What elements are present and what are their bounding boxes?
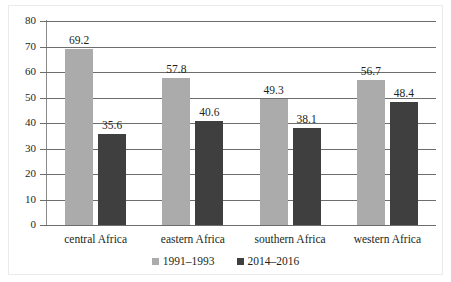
legend-label: 2014–2016 <box>248 255 300 268</box>
y-axis-tick-label: 50 <box>10 92 36 103</box>
y-axis-tick <box>40 174 47 175</box>
bar-value-label: 57.8 <box>156 63 196 75</box>
bar-value-label: 38.1 <box>287 113 327 125</box>
y-axis-tick-label: 70 <box>10 41 36 52</box>
bar <box>65 49 93 225</box>
bar <box>260 99 288 225</box>
y-axis-tick <box>40 72 47 73</box>
bar <box>357 80 385 225</box>
y-axis-tick <box>40 21 47 22</box>
y-axis-tick <box>40 225 47 226</box>
legend: 1991–19932014–2016 <box>0 255 451 268</box>
y-axis-tick <box>40 200 47 201</box>
y-axis-tick <box>40 149 47 150</box>
category-label: western Africa <box>327 233 447 246</box>
bar-value-label: 56.7 <box>351 65 391 77</box>
bar-chart: 01020304050607080 69.235.657.840.649.338… <box>0 0 451 282</box>
y-axis-tick-label: 10 <box>10 194 36 205</box>
y-axis-tick-label: 20 <box>10 168 36 179</box>
y-axis-tick-label: 0 <box>10 219 36 230</box>
legend-item[interactable]: 2014–2016 <box>237 255 300 268</box>
y-axis-tick <box>40 123 47 124</box>
y-axis-tick <box>40 98 47 99</box>
bar <box>195 121 223 225</box>
bar <box>293 128 321 225</box>
gridline <box>47 225 436 226</box>
bar-value-label: 40.6 <box>189 106 229 118</box>
legend-label: 1991–1993 <box>163 255 215 268</box>
bar-value-label: 49.3 <box>254 84 294 96</box>
bar-value-label: 48.4 <box>384 87 424 99</box>
y-axis-tick-label: 40 <box>10 117 36 128</box>
y-axis-tick-label: 60 <box>10 66 36 77</box>
bar-value-label: 69.2 <box>59 34 99 46</box>
y-axis-tick <box>40 47 47 48</box>
y-axis-tick-label: 30 <box>10 143 36 154</box>
bar <box>390 102 418 225</box>
bar-value-label: 35.6 <box>92 119 132 131</box>
legend-swatch-icon <box>237 258 244 265</box>
legend-item[interactable]: 1991–1993 <box>152 255 215 268</box>
y-axis-tick-label: 80 <box>10 15 36 26</box>
bar <box>162 78 190 225</box>
legend-swatch-icon <box>152 258 159 265</box>
bar <box>98 134 126 225</box>
